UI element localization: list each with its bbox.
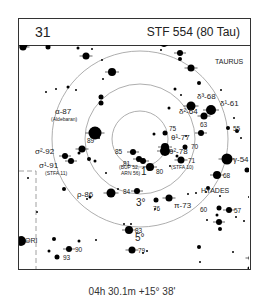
star: [101, 59, 103, 61]
star-label: δ¹-61: [220, 99, 239, 108]
star: [27, 177, 29, 179]
star: [178, 57, 182, 61]
star-label: σ²-92: [35, 147, 55, 156]
star: [78, 240, 81, 243]
star-label: 85: [115, 148, 123, 155]
star: [216, 214, 219, 217]
constellation-label: HYADES: [201, 187, 230, 194]
star: [153, 133, 156, 136]
star-label: α-87: [55, 107, 72, 116]
star-label: 80: [156, 168, 164, 175]
star: [232, 251, 234, 253]
star-sublabel: (STFA 10): [171, 164, 194, 170]
star: [105, 172, 107, 174]
star: [168, 107, 171, 110]
star: [78, 152, 81, 155]
star-sublabel: (STFA 11): [45, 170, 67, 176]
star: [226, 126, 230, 130]
star-label: 79: [138, 247, 146, 254]
star-label: 55: [233, 125, 241, 132]
star: [99, 101, 104, 106]
star: [45, 91, 47, 93]
chart-number: 31: [35, 24, 51, 40]
star: [180, 94, 182, 96]
star-label: 89: [87, 137, 95, 144]
star-label: 84: [123, 188, 131, 195]
star: [219, 195, 221, 197]
star: [197, 245, 201, 249]
chart-header: 31 STF 554 (80 Tau): [19, 19, 250, 46]
star: [174, 88, 177, 91]
constellation-boundary: [19, 171, 36, 269]
star: [91, 48, 93, 50]
star: [55, 88, 57, 90]
star: [46, 45, 51, 50]
star: [235, 216, 237, 218]
star-label: 83: [135, 227, 143, 234]
star-label: 93: [63, 254, 71, 261]
star: [187, 193, 189, 195]
star-label: ρ-86: [77, 190, 94, 199]
star: [243, 220, 245, 222]
star: [185, 135, 187, 137]
star-label: 68: [223, 172, 231, 179]
star-label: 75: [169, 125, 177, 132]
star: [117, 188, 119, 190]
star: [199, 261, 201, 263]
star: [245, 168, 250, 173]
constellation-label: ORI: [25, 237, 38, 244]
star: [160, 49, 162, 51]
star-label: γ-54: [233, 155, 249, 164]
star: [217, 206, 222, 211]
star: [142, 252, 144, 254]
star: [123, 223, 125, 225]
star: [98, 137, 100, 139]
star: [36, 211, 38, 213]
star-label: δ³-68: [197, 92, 216, 101]
star-label: π-73: [174, 201, 192, 210]
star: [154, 198, 159, 203]
star: [233, 117, 235, 119]
star: [77, 47, 80, 50]
star: [248, 196, 249, 198]
star: [62, 187, 66, 191]
star-sublabel: (Aldebaran): [51, 116, 77, 122]
star: [52, 237, 56, 241]
star: [75, 89, 77, 91]
star: [195, 192, 197, 194]
star-label: 63: [200, 121, 208, 128]
star: [67, 86, 70, 89]
star: [102, 78, 104, 80]
star: [197, 81, 201, 85]
coordinates-footer: 04h 30.1m +15° 38': [0, 286, 264, 297]
star-label: δ²-64: [179, 107, 198, 116]
star: [163, 131, 168, 136]
star: [99, 95, 104, 100]
star-label: 90: [75, 246, 83, 253]
star: [95, 239, 97, 241]
star-map: 1°3°5°ε-74δ³-68δ²-64δ¹-6163α-8789σ²-92σ¹…: [19, 45, 249, 269]
distance-label: 3°: [136, 197, 146, 208]
star: [183, 145, 188, 150]
chart-title: STF 554 (80 Tau): [147, 25, 240, 39]
constellation-label: TAURUS: [215, 58, 244, 65]
star: [218, 227, 222, 231]
star-label: 71: [188, 157, 196, 164]
star: [240, 137, 242, 139]
star-label: θ¹-77: [171, 133, 190, 142]
star: [130, 223, 132, 225]
star-label: σ¹-91: [39, 161, 59, 170]
chart-frame: 31 STF 554 (80 Tau) 1°3°5°ε-74δ³-68δ²-64…: [18, 18, 251, 270]
star-label: 60: [200, 206, 208, 213]
star: [248, 267, 250, 270]
star-label: 70: [191, 143, 199, 150]
star: [55, 255, 60, 260]
star: [94, 160, 97, 163]
star-map-svg: 1°3°5°ε-74δ³-68δ²-64δ¹-6163α-8789σ²-92σ¹…: [19, 45, 249, 269]
star: [154, 208, 156, 210]
star: [220, 89, 222, 91]
star: [146, 250, 148, 252]
star: [87, 157, 91, 161]
star-sublabel: ARN 56): [121, 170, 141, 176]
star: [176, 155, 179, 158]
